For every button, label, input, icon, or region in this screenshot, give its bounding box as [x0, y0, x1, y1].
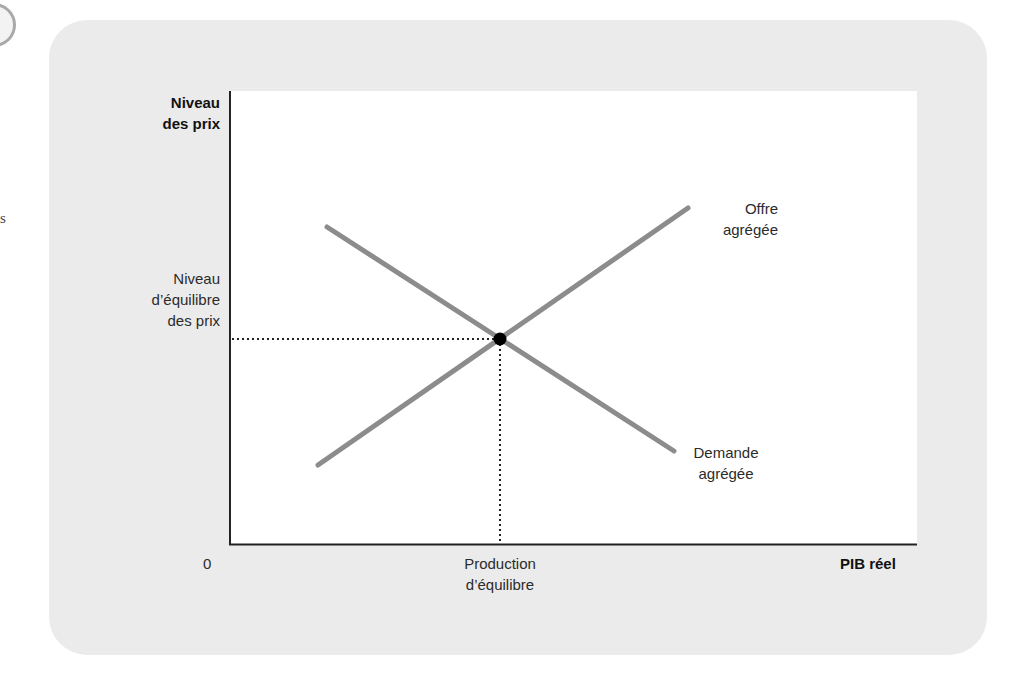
y-axis-title-line2: des prix: [130, 113, 220, 134]
equilibrium-price-line1: Niveau: [120, 268, 220, 289]
y-axis-title: Niveau des prix: [130, 92, 220, 134]
origin-label: 0: [203, 553, 211, 574]
demand-label-line1: Demande: [680, 442, 772, 463]
supply-label-line2: agrégée: [690, 219, 778, 240]
equilibrium-output-label: Production d’équilibre: [430, 553, 570, 595]
equilibrium-price-line2: d’équilibre: [120, 289, 220, 310]
demand-curve-label: Demande agrégée: [680, 442, 772, 484]
y-axis-title-line1: Niveau: [130, 92, 220, 113]
x-axis-title: PIB réel: [840, 553, 896, 574]
equilibrium-output-line2: d’équilibre: [430, 574, 570, 595]
equilibrium-price-label: Niveau d’équilibre des prix: [120, 268, 220, 331]
demand-label-line2: agrégée: [680, 463, 772, 484]
equilibrium-point: [494, 333, 507, 346]
equilibrium-output-line1: Production: [430, 553, 570, 574]
supply-curve-label: Offre agrégée: [690, 198, 778, 240]
supply-label-line1: Offre: [690, 198, 778, 219]
equilibrium-price-line3: des prix: [120, 310, 220, 331]
